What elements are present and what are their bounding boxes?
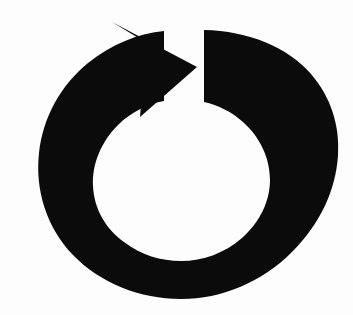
- icon-canvas: Refresh: [0, 0, 353, 315]
- refresh-icon[interactable]: Refresh: [0, 0, 353, 315]
